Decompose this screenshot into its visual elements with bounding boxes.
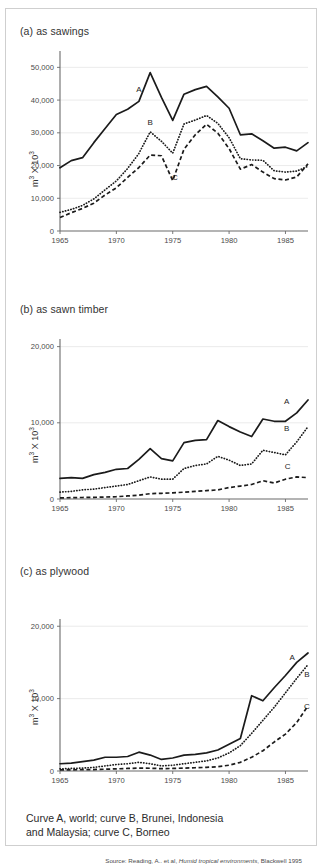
curve-label-a: A bbox=[136, 85, 142, 94]
x-tick-label: 1965 bbox=[52, 504, 69, 513]
y-tick-label: 30,000 bbox=[31, 128, 54, 137]
y-tick-label: 0 bbox=[50, 495, 54, 504]
series-line-c bbox=[60, 477, 308, 498]
panel-c: (c) as plywood m3 X 103 010,00020,000196… bbox=[6, 549, 318, 807]
x-tick-label: 1980 bbox=[221, 504, 238, 513]
y-tick-label: 20,000 bbox=[31, 342, 54, 351]
curve-label-c: C bbox=[304, 702, 310, 711]
x-tick-label: 1985 bbox=[277, 504, 294, 513]
panel-b: (b) as sawn timber m3 X 103 010,00020,00… bbox=[6, 287, 318, 549]
x-tick-label: 1965 bbox=[52, 776, 69, 785]
figure-caption: Curve A, world; curve B, Brunei, Indones… bbox=[26, 811, 223, 839]
x-tick-label: 1970 bbox=[108, 776, 125, 785]
curve-label-c: C bbox=[172, 173, 178, 182]
x-tick-label: 1975 bbox=[164, 776, 181, 785]
y-tick-label: 40,000 bbox=[31, 96, 54, 105]
figure-frame: (a) as sawings m3 X 103 010,00020,00030,… bbox=[5, 8, 317, 846]
curve-label-a: A bbox=[284, 397, 290, 406]
figure-page: (a) as sawings m3 X 103 010,00020,00030,… bbox=[0, 0, 322, 868]
figure-source: Source: Reading, A.. et al, Humid tropic… bbox=[105, 857, 302, 864]
y-tick-label: 10,000 bbox=[31, 694, 54, 703]
source-prefix: Source: Reading, A.. et al, bbox=[105, 857, 179, 864]
x-tick-label: 1970 bbox=[108, 236, 125, 245]
curve-label-c: C bbox=[285, 462, 291, 471]
series-line-a bbox=[60, 400, 308, 478]
y-tick-label: 10,000 bbox=[31, 418, 54, 427]
y-tick-label: 10,000 bbox=[31, 194, 54, 203]
y-tick-label: 0 bbox=[50, 767, 54, 776]
curve-label-a: A bbox=[290, 653, 296, 662]
y-tick-label: 20,000 bbox=[31, 622, 54, 631]
y-tick-label: 20,000 bbox=[31, 161, 54, 170]
x-tick-label: 1980 bbox=[221, 236, 238, 245]
x-tick-label: 1970 bbox=[108, 504, 125, 513]
panel-c-plot: 010,00020,00019651970197519801985ABC bbox=[6, 549, 318, 779]
source-suffix: , Blackwell 1995 bbox=[257, 857, 302, 864]
panel-a: (a) as sawings m3 X 103 010,00020,00030,… bbox=[6, 9, 318, 287]
series-line-c bbox=[60, 706, 308, 770]
x-tick-label: 1975 bbox=[164, 504, 181, 513]
x-tick-label: 1985 bbox=[277, 776, 294, 785]
series-line-b bbox=[60, 115, 308, 212]
panel-b-plot: 010,00020,00019651970197519801985ABC bbox=[6, 287, 318, 517]
curve-label-b: B bbox=[148, 118, 153, 127]
series-line-a bbox=[60, 653, 308, 764]
x-tick-label: 1965 bbox=[52, 236, 69, 245]
y-tick-label: 0 bbox=[50, 227, 54, 236]
curve-label-b: B bbox=[304, 670, 309, 679]
y-tick-label: 50,000 bbox=[31, 63, 54, 72]
x-tick-label: 1975 bbox=[164, 236, 181, 245]
series-line-a bbox=[60, 73, 308, 168]
x-tick-label: 1985 bbox=[277, 236, 294, 245]
series-line-b bbox=[60, 665, 308, 769]
panel-a-plot: 010,00020,00030,00040,00050,000196519701… bbox=[6, 9, 318, 249]
curve-label-b: B bbox=[284, 424, 289, 433]
x-tick-label: 1980 bbox=[221, 776, 238, 785]
source-title: Humid tropical environments bbox=[179, 857, 257, 864]
